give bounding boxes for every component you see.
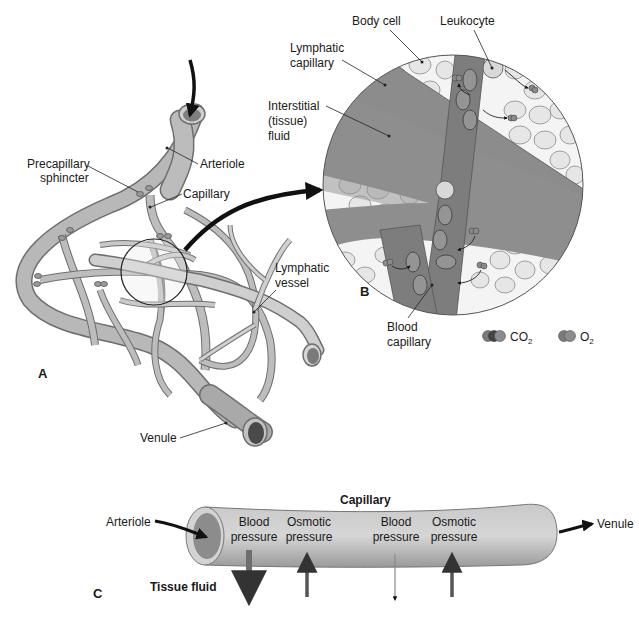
venule-outflow-arrow bbox=[559, 524, 592, 532]
label-lymphatic-capillary-1: Lymphatic bbox=[290, 41, 344, 55]
capillary-title: Capillary bbox=[340, 493, 391, 507]
label-arteriole-c: Arteriole bbox=[106, 515, 151, 529]
gas-legend: CO2 O2 bbox=[483, 330, 595, 346]
force-2-line2: pressure bbox=[286, 530, 333, 544]
force-3-line2: pressure bbox=[373, 530, 420, 544]
venule bbox=[210, 395, 267, 446]
label-interstitial-2: (tissue) bbox=[268, 114, 307, 128]
label-venule-c: Venule bbox=[597, 517, 634, 531]
inflow-arrow bbox=[190, 60, 194, 115]
figure: Precapillary sphincter Arteriole Capilla… bbox=[0, 0, 639, 619]
label-interstitial-1: Interstitial bbox=[268, 99, 319, 113]
label-lymphatic-vessel-1: Lymphatic bbox=[275, 261, 329, 275]
label-lymphatic-vessel-2: vessel bbox=[275, 276, 309, 290]
label-precapillary: Precapillary bbox=[27, 157, 90, 171]
panel-label-a: A bbox=[38, 366, 48, 381]
co2-label: CO2 bbox=[510, 330, 533, 346]
label-sphincter: sphincter bbox=[40, 171, 89, 185]
panel-label-c: C bbox=[93, 586, 103, 601]
label-capillary: Capillary bbox=[183, 187, 230, 201]
magnifier-circle bbox=[121, 239, 187, 305]
panel-label-b: B bbox=[360, 284, 369, 299]
force-1-line1: Blood bbox=[239, 515, 270, 529]
label-leukocyte: Leukocyte bbox=[440, 14, 495, 28]
co2-molecule-icon bbox=[483, 331, 506, 342]
label-arteriole: Arteriole bbox=[200, 157, 245, 171]
label-body-cell: Body cell bbox=[352, 14, 401, 28]
label-blood-capillary-2: capillary bbox=[387, 335, 431, 349]
force-4-line1: Osmotic bbox=[432, 515, 476, 529]
label-blood-capillary-1: Blood bbox=[387, 320, 418, 334]
force-2-line1: Osmotic bbox=[287, 515, 331, 529]
label-lymphatic-capillary-2: capillary bbox=[290, 56, 334, 70]
o2-label: O2 bbox=[580, 330, 594, 346]
panel-b-magnified-view bbox=[300, 50, 600, 330]
arteriole-opening bbox=[170, 104, 205, 190]
force-1-line2: pressure bbox=[231, 530, 278, 544]
force-4-line2: pressure bbox=[431, 530, 478, 544]
label-venule: Venule bbox=[140, 431, 177, 445]
force-3-line1: Blood bbox=[381, 515, 412, 529]
label-tissue-fluid: Tissue fluid bbox=[150, 580, 216, 594]
label-interstitial-3: fluid bbox=[268, 129, 290, 143]
o2-molecule-icon bbox=[559, 331, 576, 342]
